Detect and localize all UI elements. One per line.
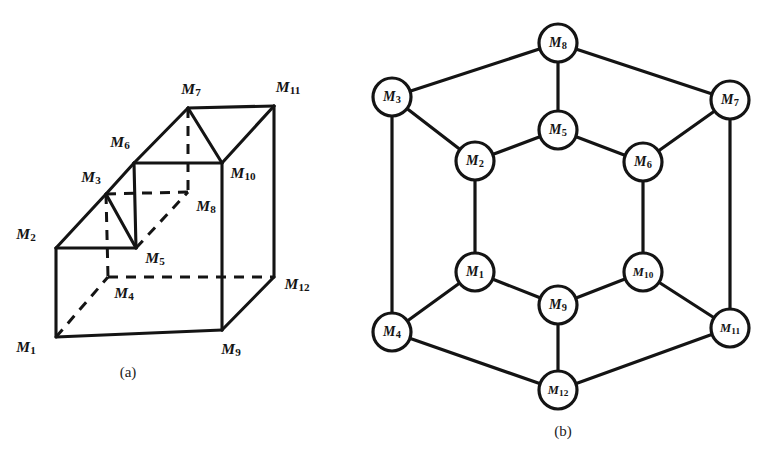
- panel-a-edge-m6-m7: [134, 108, 188, 163]
- panel-a-vertex-label-m11: M11: [276, 79, 301, 97]
- panel-a-edge-m7-m10: [188, 108, 222, 163]
- panel-b-node-m8[interactable]: [539, 24, 577, 62]
- panel-b-node-m3[interactable]: [373, 78, 411, 116]
- panel-b-node-m2[interactable]: [456, 142, 494, 180]
- panel-b-node-m12[interactable]: [539, 371, 577, 409]
- panel-a-vertex-label-m12: M12: [284, 276, 309, 294]
- panel-b-edge-m12-m11: [575, 334, 713, 384]
- panel-b-edge-m10-m11: [658, 282, 715, 319]
- panel-b-edge-m9-m10: [575, 279, 626, 299]
- panel-b-edge-m5-m6: [575, 136, 626, 155]
- panel-a-hidden-edge-m5-m8: [136, 192, 188, 248]
- panel-b-node-m6[interactable]: [624, 143, 662, 181]
- panel-b-edge-m6-m7: [658, 110, 716, 151]
- panel-a-vertex-label-m1: M1: [16, 339, 36, 357]
- panel-a-solid-edges: [56, 106, 274, 337]
- panel-b-node-m7[interactable]: [711, 81, 749, 119]
- panel-a-vertex-label-m5: M5: [145, 250, 165, 268]
- panel-a-hidden-edge-m3-m4: [106, 194, 108, 277]
- panel-a-caption: (a): [120, 364, 137, 381]
- panel-a-edge-m3-m6: [106, 163, 134, 194]
- panel-b-node-m5[interactable]: [539, 111, 577, 149]
- panel-a-edge-m10-m11: [222, 106, 274, 163]
- panel-b-edge-m2-m5: [492, 136, 541, 154]
- figure-canvas: [0, 0, 773, 469]
- panel-a-vertex-label-m6: M6: [110, 134, 130, 152]
- panel-a-vertex-label-m10: M10: [230, 165, 255, 183]
- panel-a-vertex-label-m7: M7: [181, 81, 201, 99]
- panel-a-hidden-edge-m1-m4: [56, 277, 108, 337]
- panel-b-edge-m8-m7: [575, 49, 713, 95]
- panel-a-edge-m3-m5: [106, 194, 136, 248]
- panel-b-edge-m4-m1: [407, 283, 461, 322]
- panel-a-edge-m9-m12: [222, 277, 274, 330]
- panel-b-node-m1[interactable]: [456, 253, 494, 291]
- panel-b-nodes: [373, 24, 749, 409]
- panel-b-caption: (b): [554, 423, 572, 440]
- panel-a-edge-m7-m11: [188, 106, 274, 108]
- panel-a-vertex-label-m9: M9: [221, 341, 241, 359]
- panel-b-node-m4[interactable]: [373, 313, 411, 351]
- panel-a-edge-m1-m9: [56, 330, 222, 337]
- figure-root: M1M2M3M4M5M6M7M8M9M10M11M12 M1M2M3M4M5M6…: [0, 0, 773, 469]
- panel-b-node-m10[interactable]: [624, 253, 662, 291]
- panel-b-node-m11[interactable]: [711, 309, 749, 347]
- panel-b-edges: [392, 49, 730, 384]
- panel-a-vertex-label-m2: M2: [16, 226, 36, 244]
- panel-a-hidden-edge-m3-m8: [106, 192, 188, 194]
- panel-a-vertex-label-m3: M3: [81, 169, 101, 187]
- panel-a-vertex-label-m4: M4: [114, 285, 134, 303]
- panel-a-edge-m5-m6: [134, 163, 136, 248]
- panel-b-edge-m3-m2: [406, 108, 460, 150]
- panel-a-edge-m2-m3: [56, 194, 106, 248]
- panel-b-edge-m1-m9: [492, 279, 542, 299]
- panel-b-edge-m3-m8: [409, 49, 541, 92]
- panel-a-vertex-label-m8: M8: [196, 198, 216, 216]
- panel-b-edge-m4-m12: [409, 338, 541, 384]
- panel-b-node-m9[interactable]: [539, 286, 577, 324]
